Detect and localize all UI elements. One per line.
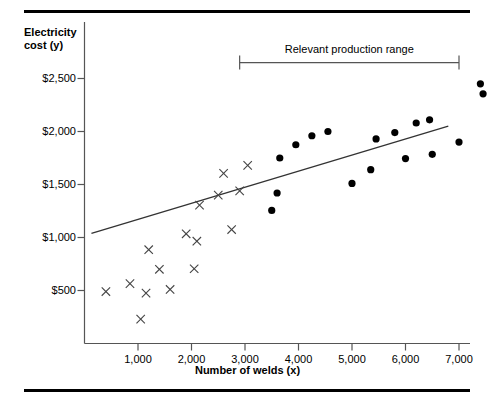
data-point-dot [402,155,409,162]
data-point-dot [372,135,379,142]
data-point-cross [155,265,163,273]
trend-line [91,126,448,233]
scatter-plot [0,0,495,407]
data-point-dot [426,116,433,123]
figure-container: Electricity cost (y) Number of welds (x)… [0,0,495,407]
data-point-dot [276,154,283,161]
data-point-cross [235,187,243,195]
data-point-cross [243,161,251,169]
data-point-dot [308,132,315,139]
data-point-cross [136,315,144,323]
x-tick-label: 6,000 [376,353,436,365]
data-point-cross [166,285,174,293]
data-point-cross [145,245,153,253]
y-tick-label: $2,000 [14,125,76,137]
x-tick-label: 1,000 [108,353,168,365]
data-point-cross [214,191,222,199]
data-point-cross [227,225,235,233]
data-point-dot [324,128,331,135]
data-point-cross [182,230,190,238]
data-point-dot [348,180,355,187]
x-tick-label: 3,000 [215,353,275,365]
data-point-dot [391,129,398,136]
data-point-cross [190,265,198,273]
data-point-dot [268,207,275,214]
data-point-dot [455,139,462,146]
data-point-dot [477,80,484,87]
y-tick-label: $1,500 [14,178,76,190]
x-tick-label: 5,000 [322,353,382,365]
data-point-dot [292,141,299,148]
y-axis-ticks [78,79,85,291]
data-point-cross [126,279,134,287]
y-tick-label: $2,500 [14,72,76,84]
data-point-dot [429,151,436,158]
y-tick-label: $1,000 [14,231,76,243]
data-point-cross [195,201,203,209]
range-bracket [240,56,459,70]
data-point-cross [102,287,110,295]
data-point-dot [274,189,281,196]
data-point-cross [142,289,150,297]
data-point-dot [413,119,420,126]
x-tick-label: 7,000 [429,353,489,365]
y-tick-label: $500 [14,284,76,296]
data-point-dot [367,166,374,173]
data-point-cross [193,237,201,245]
series-outside-range-markers [102,161,252,323]
x-tick-label: 4,000 [269,353,329,365]
data-point-dot [479,90,486,97]
data-point-cross [219,169,227,177]
x-axis-ticks [138,344,459,351]
x-tick-label: 2,000 [162,353,222,365]
